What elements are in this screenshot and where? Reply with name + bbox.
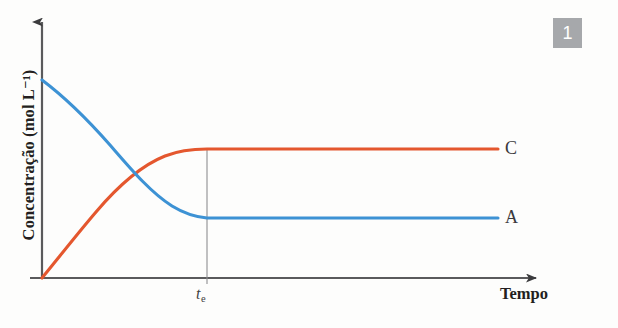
tick-symbol: t bbox=[196, 285, 200, 302]
curve-c-product bbox=[42, 149, 498, 278]
x-axis-title: Tempo bbox=[500, 284, 548, 304]
y-axis-title: Concentração (mol L⁻¹) bbox=[19, 30, 39, 280]
tick-subscript: e bbox=[201, 293, 206, 304]
concentration-time-plot bbox=[0, 0, 618, 328]
curve-label-a: A bbox=[505, 207, 518, 228]
curve-label-c: C bbox=[505, 138, 517, 159]
x-axis-tick-label-te: te bbox=[196, 285, 205, 303]
figure-number-badge: 1 bbox=[553, 18, 582, 48]
figure-container: Concentração (mol L⁻¹) Tempo te C A 1 bbox=[0, 0, 618, 328]
